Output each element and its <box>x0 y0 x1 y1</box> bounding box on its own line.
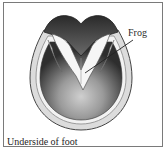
frog-label: Frog <box>128 27 147 39</box>
hoof-illustration <box>0 0 168 152</box>
figure-caption: Underside of foot <box>7 136 78 148</box>
